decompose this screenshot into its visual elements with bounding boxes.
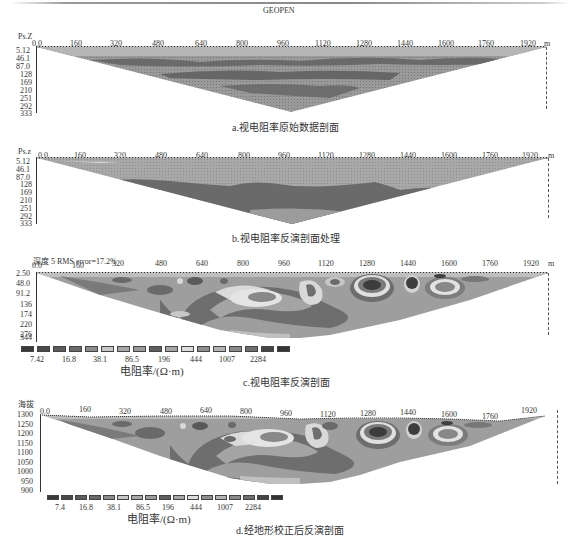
panel-d: 海拔 0.0 160 320 480 640 800 960 1120 1280…: [0, 0, 575, 544]
legend-label: 7.4: [55, 503, 65, 512]
legend-swatch: [61, 495, 73, 500]
legend-label: 2284: [245, 503, 261, 512]
legend-label: 444: [190, 503, 202, 512]
legend-swatch: [131, 495, 143, 500]
legend-swatch: [229, 495, 241, 500]
legend-swatch: [257, 495, 269, 500]
legend-swatch: [243, 495, 255, 500]
legend-swatch: [145, 495, 157, 500]
legend-swatch: [201, 495, 213, 500]
panel-caption: d.经地形校正后反演剖面: [236, 522, 344, 537]
legend-swatch: [215, 495, 227, 500]
legend-unit: 电阻率/(Ω·m): [127, 510, 191, 526]
legend-swatch: [89, 495, 101, 500]
legend-label: 38.1: [107, 503, 121, 512]
legend-swatch: [173, 495, 185, 500]
legend-swatch: [187, 495, 199, 500]
resistivity-color-legend: [47, 495, 283, 500]
legend-swatch: [103, 495, 115, 500]
legend-label: 1007: [217, 503, 233, 512]
legend-swatch: [75, 495, 87, 500]
legend-swatch: [159, 495, 171, 500]
terrain-corrected-inversion-section: [0, 0, 575, 544]
legend-swatch: [271, 495, 283, 500]
legend-swatch: [117, 495, 129, 500]
legend-label: 16.8: [79, 503, 93, 512]
legend-swatch: [47, 495, 59, 500]
